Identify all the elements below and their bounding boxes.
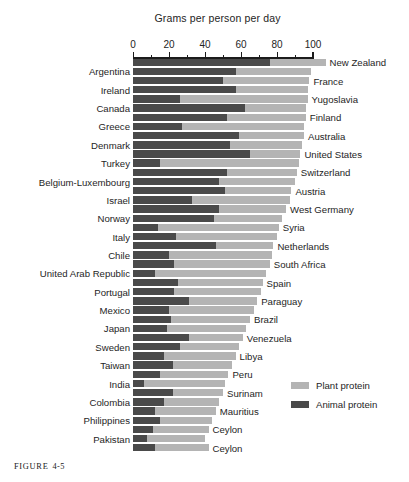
animal-protein-segment [133,251,169,258]
bar-row [133,316,250,323]
plant-protein-segment [167,325,246,332]
animal-protein-segment [133,59,270,66]
animal-protein-segment [133,132,239,139]
animal-protein-segment [133,86,236,93]
bar-row [133,417,212,424]
animal-protein-segment [133,407,155,414]
plant-protein-segment [160,371,228,378]
legend: Plant protein Animal protein [291,380,377,418]
plant-protein-segment [245,104,306,111]
bar-row [133,114,306,121]
plant-protein-segment [189,297,257,304]
animal-protein-segment [133,352,164,359]
category-label: New Zealand [330,58,387,67]
animal-protein-segment [133,380,144,387]
category-label: Ceylon [213,425,243,434]
plant-protein-segment [192,196,289,203]
category-label: Australia [308,131,345,140]
bar-row [133,361,232,368]
bar-row [133,205,286,212]
category-label: Ireland [101,85,130,94]
chart-title: Grams per person per day [0,12,409,24]
category-label: Israel [107,195,130,204]
category-label: Canada [96,104,130,113]
plant-protein-segment [155,270,267,277]
axis-tick-80 [277,52,278,59]
bar-row [133,132,304,139]
bar-row [133,426,209,433]
plant-protein-segment [227,169,297,176]
category-label: India [109,379,130,388]
bar-row [133,224,279,231]
plant-protein-segment [223,77,309,84]
category-label: Greece [99,122,130,131]
plant-protein-segment [219,178,295,185]
animal-protein-swatch [291,401,309,409]
animal-protein-segment [133,426,153,433]
plant-protein-segment [169,306,254,313]
plant-protein-segment [173,389,223,396]
animal-protein-segment [133,178,219,185]
bar-row [133,77,309,84]
plant-protein-segment [189,334,243,341]
plant-protein-segment [250,150,300,157]
category-label: Pakistan [93,434,130,443]
bar-row [133,279,263,286]
plant-protein-segment [230,141,302,148]
category-label: Mauritius [220,407,259,416]
bar-row [133,150,300,157]
plant-protein-segment [160,159,299,166]
bar-row [133,444,209,451]
category-label: Netherlands [277,241,329,250]
plant-protein-segment [180,95,308,102]
plant-protein-segment [153,426,209,433]
category-label: West Germany [290,205,354,214]
bar-row [133,435,205,442]
plant-protein-segment [173,361,232,368]
category-label: Colombia [89,397,130,406]
axis-tick-60 [241,52,242,59]
category-label: Portugal [94,287,130,296]
animal-protein-segment [133,95,180,102]
figure-caption: FIGURE4-5 [14,462,65,471]
category-label: Turkey [101,159,130,168]
bar-row [133,169,297,176]
axis-tick-end [312,52,313,59]
plant-protein-segment [158,224,279,231]
bar-row [133,178,295,185]
plant-protein-segment [155,444,209,451]
category-label: Argentina [89,67,130,76]
bar-row [133,343,239,350]
axis-tick-40 [205,52,206,59]
category-label: Sweden [95,342,130,351]
animal-protein-segment [133,371,160,378]
axis-tick-label-40: 40 [199,39,210,50]
category-label: Venezuela [247,333,292,342]
animal-protein-segment [133,398,164,405]
category-label: Austria [295,186,325,195]
animal-protein-segment [133,77,223,84]
legend-item-animal: Animal protein [291,399,377,410]
animal-protein-segment [133,114,227,121]
animal-protein-segment [133,123,182,130]
bar-row [133,141,302,148]
figure-caption-number: 4-5 [52,462,64,471]
animal-protein-segment [133,150,250,157]
bar-row [133,260,270,267]
bar-row [133,242,273,249]
axis-tick-0 [133,52,134,59]
animal-protein-segment [133,444,155,451]
category-label: Libya [240,351,263,360]
bar-row [133,104,306,111]
axis-tick-label-60: 60 [235,39,246,50]
axis-tick-20 [169,52,170,59]
category-label: France [313,76,343,85]
axis-tick-label-0: 0 [130,39,136,50]
plant-protein-segment [164,352,236,359]
bar-row [133,68,311,75]
category-label: Japan [104,324,130,333]
plant-protein-swatch [291,382,309,390]
plant-protein-segment [144,380,225,387]
category-label: United States [304,150,362,159]
category-label: Yugoslavia [312,94,358,103]
